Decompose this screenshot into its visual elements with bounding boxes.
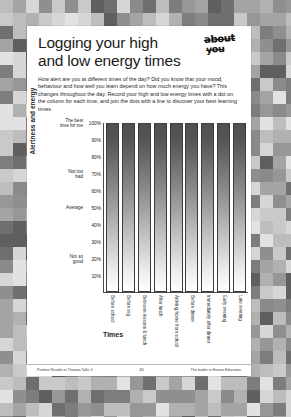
x-axis-title: Times [103, 331, 123, 338]
x-tick: Before dinner [185, 295, 198, 341]
chart-bar[interactable] [217, 123, 230, 292]
footer-right: The leader in Human Education [190, 368, 241, 372]
x-tick: After lunch [153, 295, 166, 341]
y-band-label: The besttime for me [53, 118, 83, 128]
y-tick-label: 30% [86, 240, 101, 245]
y-band-label: Not toobad [53, 169, 83, 179]
x-tick-label: Arriving home from school [173, 295, 178, 347]
x-tick-label: Before school [109, 295, 114, 323]
y-tick: Not toobad70% [53, 170, 101, 178]
x-tick: Early evening [217, 295, 230, 341]
x-tick: Between lessons & lunch [137, 295, 150, 341]
y-tick: 30% [53, 238, 101, 246]
chart-bar[interactable] [185, 123, 198, 292]
bar-series [104, 123, 248, 292]
y-band-label: Average [53, 205, 83, 210]
y-tick: 10% [53, 272, 101, 280]
intro-paragraph: How alert are you at different times of … [38, 76, 240, 113]
page-title-line1: Logging your high [38, 34, 158, 51]
y-axis-ticks: The besttime for me100%90%80%Not toobad7… [35, 123, 101, 293]
y-tick-label: 80% [86, 155, 101, 160]
y-tick-label: 90% [86, 138, 101, 143]
page-title: Logging your high and low energy times [38, 34, 188, 69]
page-title-line2: and low energy times [38, 52, 180, 69]
x-axis-ticks: Before schoolBefore regBetween lessons &… [103, 295, 248, 341]
chart-bar[interactable] [106, 123, 119, 292]
plot-area [103, 123, 248, 293]
y-tick: 90% [53, 136, 101, 144]
x-tick: Late evening [233, 295, 246, 341]
chart-bar[interactable] [138, 123, 151, 292]
x-tick: Arriving home from school [169, 295, 182, 341]
footer-left: Positive Results at Thomas Tallis 3 [37, 368, 92, 372]
x-tick-label: Immediately after dinner [205, 295, 210, 343]
x-tick-label: Late evening [237, 295, 242, 321]
y-tick-label: 20% [86, 257, 101, 262]
chart-bar[interactable] [170, 123, 183, 292]
y-tick: 60% [53, 187, 101, 195]
page-header: Logging your high and low energy times a… [27, 26, 251, 69]
y-tick: Average50% [53, 204, 101, 212]
x-tick-label: Before reg [125, 295, 130, 316]
y-tick-label: 50% [86, 206, 101, 211]
y-band-label: Not sogood [53, 254, 83, 264]
y-tick: 40% [53, 221, 101, 229]
x-tick-label: Between lessons & lunch [141, 295, 146, 345]
y-tick: Not sogood20% [53, 255, 101, 263]
chart-bar[interactable] [201, 123, 214, 292]
y-tick: The besttime for me100% [53, 119, 101, 127]
y-tick-label: 70% [86, 172, 101, 177]
y-tick: 80% [53, 153, 101, 161]
footer-page-number: 40 [139, 367, 143, 372]
energy-chart: Alertness and energy The besttime for me… [27, 119, 251, 344]
x-tick: Immediately after dinner [201, 295, 214, 341]
y-tick-label: 40% [86, 223, 101, 228]
y-tick-label: 60% [86, 189, 101, 194]
worksheet-page: Logging your high and low energy times a… [27, 26, 251, 376]
page-footer: Positive Results at Thomas Tallis 3 40 T… [27, 364, 251, 372]
y-tick-label: 100% [86, 121, 101, 126]
chart-bar[interactable] [122, 123, 135, 292]
chart-bar[interactable] [154, 123, 167, 292]
y-tick-label: 10% [86, 274, 101, 279]
x-tick-label: Early evening [221, 295, 226, 322]
about-you-logo: about you [197, 32, 242, 57]
x-tick-label: After lunch [157, 295, 162, 317]
chart-bar[interactable] [233, 123, 246, 292]
x-tick-label: Before dinner [189, 295, 194, 322]
logo-line2: you [188, 42, 243, 55]
